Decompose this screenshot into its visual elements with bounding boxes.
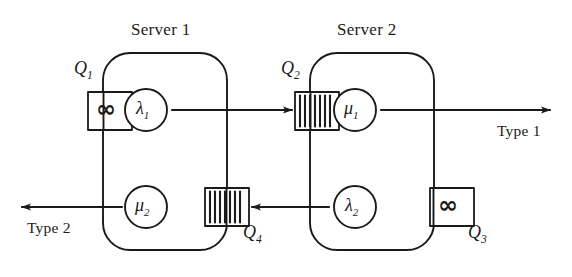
- station-mu1-label: μ1: [344, 98, 359, 121]
- queue-q4-label-text: Q: [243, 222, 256, 242]
- queue-q2-box: [295, 92, 339, 130]
- queue-q4-label: Q4: [243, 222, 262, 245]
- queue-q2-label: Q2: [281, 58, 300, 81]
- queue-q2-stripes: [300, 96, 330, 127]
- queue-q4-stripes: [210, 192, 240, 223]
- queue-q3-label-text: Q: [468, 222, 481, 242]
- station-mu2-sub: 2: [144, 206, 150, 218]
- station-lambda2-sub: 2: [353, 206, 359, 218]
- queue-q2-label-sub: 2: [294, 69, 300, 81]
- infinity-icon-q1: ∞: [96, 97, 116, 121]
- station-mu2-label: μ2: [135, 195, 150, 218]
- exit-type-2-label: Type 2: [27, 219, 71, 237]
- queue-q2-label-text: Q: [281, 58, 294, 78]
- infinity-icon-q3: ∞: [438, 193, 458, 217]
- station-lambda2-symbol: λ: [345, 195, 353, 215]
- station-mu1-sub: 1: [353, 109, 359, 121]
- station-lambda1-sub: 1: [144, 109, 150, 121]
- exit-type-1-label: Type 1: [497, 122, 541, 140]
- queue-q4-label-sub: 4: [256, 233, 262, 245]
- station-lambda2-label: λ2: [345, 195, 358, 218]
- queue-q1-label-sub: 1: [87, 69, 93, 81]
- server-1-label: Server 1: [131, 20, 191, 40]
- queue-q1-label: Q1: [74, 58, 93, 81]
- queue-q3-label-sub: 3: [481, 233, 487, 245]
- queue-q3-label: Q3: [468, 222, 487, 245]
- station-mu1-symbol: μ: [344, 98, 353, 118]
- station-mu2-symbol: μ: [135, 195, 144, 215]
- station-lambda1-label: λ1: [136, 98, 149, 121]
- station-lambda1-symbol: λ: [136, 98, 144, 118]
- queue-q1-label-text: Q: [74, 58, 87, 78]
- diagram-canvas: Server 1 Server 2 Q1 Q2 Q3 Q4 ∞ ∞ λ1 μ2 …: [0, 0, 572, 277]
- server-2-label: Server 2: [337, 20, 397, 40]
